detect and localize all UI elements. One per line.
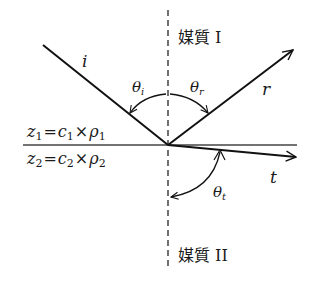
z-subscript: 1 bbox=[35, 130, 42, 143]
angle-symbol: θ bbox=[213, 183, 222, 201]
angle-subscript: t bbox=[222, 191, 227, 202]
angle-incident-label: θi bbox=[132, 78, 144, 97]
c-symbol: c bbox=[58, 149, 67, 168]
angle-symbol: θ bbox=[190, 78, 199, 96]
medium-lower-label: 媒質 II bbox=[178, 246, 228, 265]
reflected-ray-label: r bbox=[262, 79, 271, 99]
diagram-canvas: 媒質 I 媒質 II i r t θi θr θt z1=c1×ρ1 z2=c2… bbox=[0, 0, 314, 281]
rho-symbol: ρ bbox=[88, 122, 99, 141]
rho-symbol: ρ bbox=[88, 149, 99, 168]
incident-ray-label: i bbox=[82, 51, 87, 71]
c-subscript: 1 bbox=[67, 130, 74, 143]
equals-sign: = bbox=[43, 122, 56, 141]
angle-reflected-label: θr bbox=[190, 78, 205, 97]
times-sign: × bbox=[75, 149, 88, 168]
transmitted-ray-label: t bbox=[270, 167, 277, 187]
impedance-upper-label: z1=c1×ρ1 bbox=[26, 122, 106, 143]
transmitted-ray bbox=[168, 145, 296, 157]
z-subscript: 2 bbox=[35, 157, 42, 170]
angle-subscript: r bbox=[199, 86, 205, 97]
angle-subscript: i bbox=[141, 86, 144, 97]
rho-subscript: 2 bbox=[99, 157, 106, 170]
angle-transmitted-label: θt bbox=[213, 183, 227, 202]
impedance-lower-label: z2=c2×ρ2 bbox=[26, 149, 106, 170]
angle-symbol: θ bbox=[132, 78, 141, 96]
medium-upper-label: 媒質 I bbox=[178, 28, 221, 47]
times-sign: × bbox=[75, 122, 88, 141]
c-symbol: c bbox=[58, 122, 67, 141]
rho-subscript: 1 bbox=[99, 130, 106, 143]
c-subscript: 2 bbox=[67, 157, 74, 170]
angle-arc-incident bbox=[130, 94, 166, 113]
equals-sign: = bbox=[43, 149, 56, 168]
